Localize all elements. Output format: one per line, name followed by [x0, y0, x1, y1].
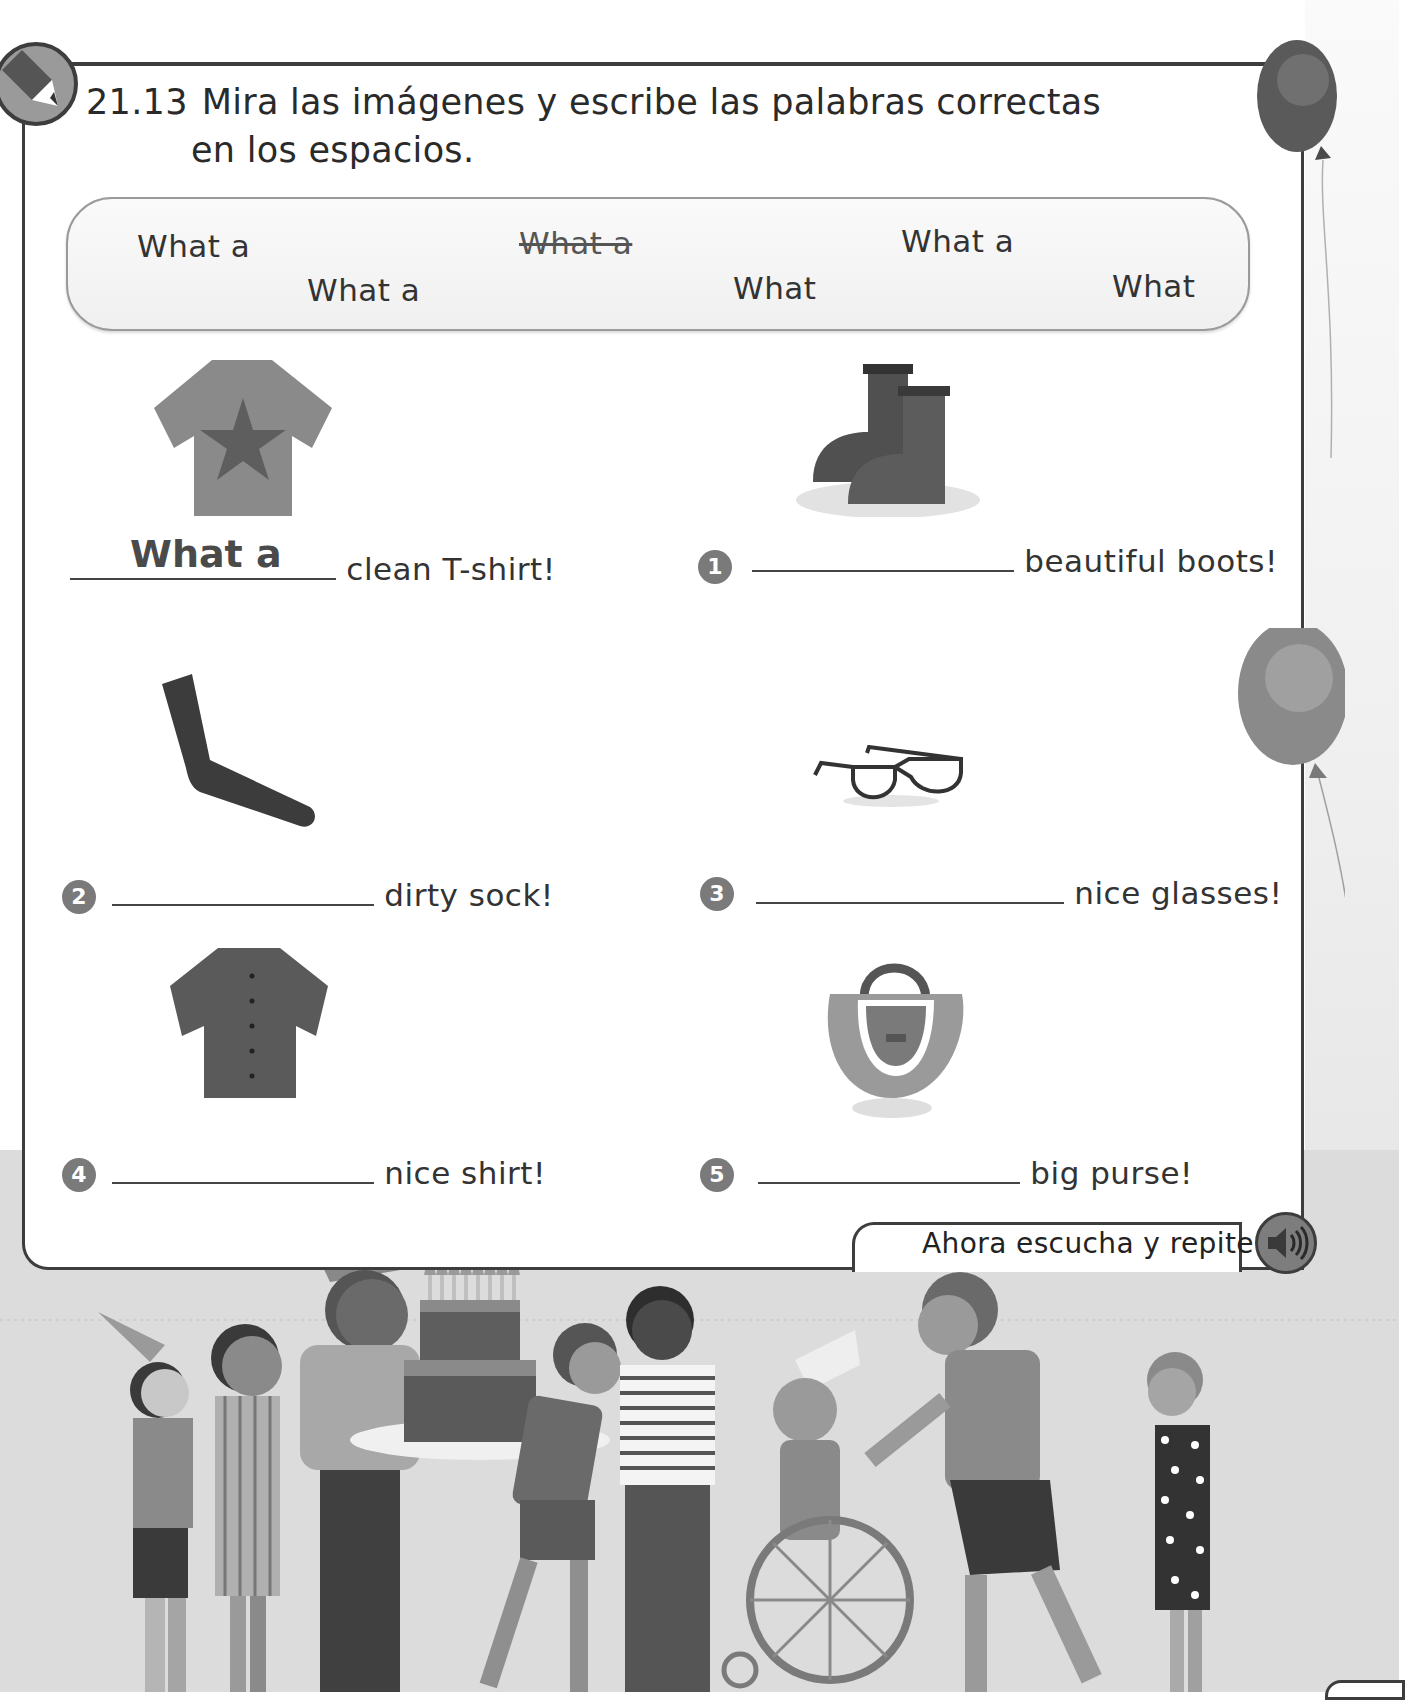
glasses-icon [813, 745, 968, 807]
word-bank-word-used: What a [519, 225, 632, 261]
answer-blank[interactable]: What a [70, 548, 336, 580]
sentence-suffix: dirty sock! [384, 877, 553, 913]
exercise-title: 21.13Mira las imágenes y escribe las pal… [86, 78, 1101, 174]
item-4-sentence: nice shirt! [112, 1152, 546, 1191]
example-answer: What a [130, 532, 282, 576]
boy-striped-shirt-figure [620, 1286, 715, 1692]
page-corner-tab [1325, 1680, 1405, 1700]
girl-striped-dress-figure [211, 1324, 282, 1692]
word-bank-word: What [1112, 268, 1195, 304]
sentence-suffix: nice glasses! [1074, 875, 1282, 911]
item-number-badge: 4 [62, 1158, 96, 1192]
example-sentence: What a clean T-shirt! [70, 548, 556, 587]
sentence-suffix: big purse! [1030, 1155, 1193, 1191]
child-party-hat-figure [98, 1312, 193, 1692]
answer-blank[interactable] [112, 874, 374, 906]
word-bank [66, 197, 1250, 331]
answer-blank[interactable] [112, 1152, 374, 1184]
answer-blank[interactable] [752, 540, 1014, 572]
exercise-number: 21.13 [86, 82, 188, 122]
item-number-badge: 3 [700, 877, 734, 911]
item-2-sentence: dirty sock! [112, 874, 554, 913]
answer-blank[interactable] [756, 872, 1064, 904]
sentence-suffix: clean T-shirt! [346, 551, 555, 587]
item-3-sentence: nice glasses! [756, 872, 1282, 911]
sentence-suffix: beautiful boots! [1024, 543, 1278, 579]
shirt-icon [168, 946, 333, 1106]
answer-blank[interactable] [758, 1152, 1020, 1184]
child-in-wheelchair-figure [724, 1330, 910, 1686]
word-bank-word: What a [137, 228, 250, 264]
t-shirt-icon [152, 358, 337, 518]
audio-play-button[interactable] [1255, 1212, 1317, 1274]
girl-polka-dress-figure [1147, 1352, 1210, 1692]
item-number-badge: 2 [62, 880, 96, 914]
boots-icon [793, 362, 983, 517]
sentence-suffix: nice shirt! [384, 1155, 545, 1191]
listen-instruction: Ahora escucha y repite. [922, 1227, 1263, 1260]
item-number-badge: 1 [698, 550, 732, 584]
pencil-icon [0, 40, 80, 128]
item-1-sentence: beautiful boots! [752, 540, 1278, 579]
speaker-icon [1258, 1215, 1314, 1271]
balloon-icon [1255, 38, 1355, 458]
word-bank-word: What a [901, 223, 1014, 259]
instruction-line-1: Mira las imágenes y escribe las palabras… [202, 82, 1101, 122]
word-bank-word: What [733, 270, 816, 306]
purse-icon [822, 958, 972, 1120]
item-number-badge: 5 [700, 1158, 734, 1192]
boy-with-crown-figure [300, 1240, 420, 1692]
item-5-sentence: big purse! [758, 1152, 1193, 1191]
word-bank-word: What a [307, 272, 420, 308]
instruction-line-2: en los espacios. [86, 126, 1101, 174]
sock-icon [160, 672, 325, 830]
